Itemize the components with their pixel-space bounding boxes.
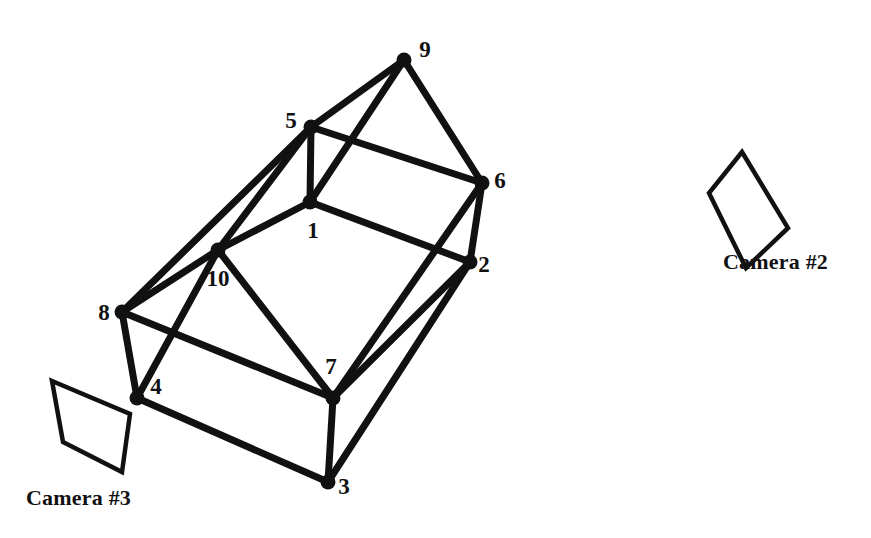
vertex-dot-1 [303, 195, 318, 210]
edge-5-6 [311, 127, 482, 183]
vertex-dot-8 [115, 305, 130, 320]
edge-8-4 [122, 312, 137, 398]
vertex-dot-group [115, 53, 490, 490]
vertex-dot-5 [304, 120, 319, 135]
vertex-label-10: 10 [207, 266, 230, 291]
vertex-label-4: 4 [150, 374, 162, 399]
edge-6-7 [333, 183, 482, 398]
vertex-label-2: 2 [478, 252, 490, 277]
figure-root: 12345678910 Camera #2 Camera #3 [0, 0, 871, 538]
vertex-label-group: 12345678910 [98, 37, 506, 499]
camera-3-frame-icon [52, 381, 130, 472]
vertex-label-1: 1 [307, 218, 319, 243]
vertex-dot-6 [475, 176, 490, 191]
edge-5-1 [310, 127, 311, 202]
vertex-dot-2 [463, 255, 478, 270]
camera-2-caption: Camera #2 [723, 249, 828, 275]
vertex-label-9: 9 [419, 37, 431, 62]
camera-3-caption: Camera #3 [26, 485, 131, 511]
vertex-label-8: 8 [98, 300, 110, 325]
edge-5-10 [218, 127, 311, 250]
edge-7-3 [328, 398, 333, 482]
edge-9-5 [311, 60, 404, 127]
vertex-dot-10 [211, 243, 226, 258]
edge-4-3 [137, 398, 328, 482]
edge-group [122, 60, 482, 482]
edge-2-7 [333, 262, 470, 398]
vertex-label-7: 7 [325, 354, 337, 379]
vertex-label-6: 6 [494, 168, 506, 193]
vertex-dot-7 [326, 391, 341, 406]
vertex-dot-3 [321, 475, 336, 490]
vertex-label-5: 5 [285, 108, 297, 133]
vertex-dot-9 [397, 53, 412, 68]
vertex-dot-4 [130, 391, 145, 406]
vertex-label-3: 3 [338, 474, 350, 499]
